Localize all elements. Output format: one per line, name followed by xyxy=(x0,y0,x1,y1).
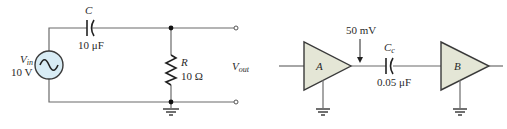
vin-symbol: Vin xyxy=(20,53,33,67)
capacitor-name: C xyxy=(85,4,93,16)
coupling-capacitor-value: 0.05 μF xyxy=(377,76,411,88)
coupling-capacitor-icon xyxy=(386,58,393,74)
rc-circuit: Vin 10 V C 10 μF R 10 Ω Vout xyxy=(11,4,250,115)
signal-annotation: 50 mV xyxy=(346,24,376,36)
output-terminal-bottom xyxy=(234,100,238,104)
top-wire xyxy=(49,28,234,51)
amplifier-b-icon xyxy=(441,42,489,90)
amplifier-a-label: A xyxy=(315,60,323,72)
amplifier-chain: A 50 mV Cc 0.05 μF B xyxy=(279,24,503,115)
vout-symbol: Vout xyxy=(232,60,250,74)
junction-dot xyxy=(169,26,174,31)
resistor-value: 10 Ω xyxy=(181,70,203,82)
vin-value: 10 V xyxy=(11,66,33,78)
ground-icon xyxy=(316,109,330,115)
coupling-capacitor-name: Cc xyxy=(384,41,395,55)
ground-icon xyxy=(163,109,179,115)
resistor-icon xyxy=(166,55,176,85)
resistor-name: R xyxy=(180,56,188,68)
amplifier-b-label: B xyxy=(454,60,461,72)
output-terminal-top xyxy=(234,26,238,30)
capacitor-value: 10 μF xyxy=(78,39,104,51)
ground-icon xyxy=(453,109,467,115)
arrow-down-icon xyxy=(357,39,363,63)
ac-source-icon xyxy=(35,51,63,79)
junction-dot xyxy=(169,100,174,105)
bottom-wire xyxy=(49,79,234,102)
amplifier-a-icon xyxy=(304,42,351,90)
